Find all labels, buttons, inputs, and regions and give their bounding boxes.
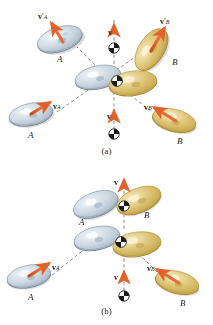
label-v-a-b: vA (52, 264, 60, 272)
label-puck-b-outgoing-b: B (144, 211, 150, 220)
label-v-cm-bottom: v (107, 113, 111, 121)
caption-panel-b: (b) (0, 306, 213, 316)
label-v-cm-bottom-b: v (114, 274, 118, 282)
cm-marker-top-b (119, 201, 129, 211)
cm-marker-bottom-b (119, 291, 129, 301)
label-v-a-prime: v′A (38, 13, 47, 21)
label-v-cm-top: v (108, 29, 112, 37)
panel-a: v′A v′B v v vA vB A B A B (a) (0, 0, 213, 165)
collision-figure: v′A v′B v v vA vB A B A B (a) (0, 0, 213, 325)
label-v-a: vA (53, 103, 61, 111)
cm-marker-collision (112, 76, 123, 87)
cm-marker-bottom (109, 129, 119, 139)
label-puck-a-outgoing-b: A (79, 218, 85, 227)
label-v-b-b: vB (147, 265, 155, 273)
label-puck-a-outgoing: A (57, 55, 63, 64)
label-puck-b-outgoing: B (172, 58, 178, 67)
label-puck-a-incoming: A (28, 131, 34, 140)
cm-marker-top (109, 43, 119, 53)
caption-panel-a: (a) (0, 146, 213, 156)
panel-b: v v vA vB A B A B (b) (0, 165, 213, 325)
label-puck-a-incoming-b: A (28, 293, 34, 302)
label-puck-b-incoming: B (177, 137, 183, 146)
label-v-cm-top-b: v (114, 179, 118, 187)
label-v-b: vB (144, 104, 152, 112)
label-v-b-prime: v′B (160, 18, 169, 26)
cm-marker-collision-b (116, 237, 127, 248)
